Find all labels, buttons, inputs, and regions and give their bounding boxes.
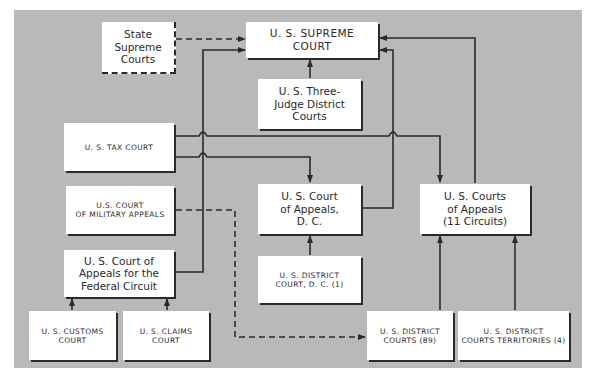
node-three-judge-district-courts: U. S. Three- Judge District Courts xyxy=(258,79,361,129)
node-label: State Supreme Courts xyxy=(114,28,161,66)
node-label: U. S. CUSTOMS COURT xyxy=(41,327,103,345)
node-court-of-appeals-dc: U. S. Court of Appeals, D. C. xyxy=(258,184,361,234)
node-us-supreme-court: U. S. SUPREME COURT xyxy=(246,22,378,58)
node-label: U.S. COURT OF MILITARY APPEALS xyxy=(75,201,164,219)
node-label: U. S. Courts of Appeals (11 Circuits) xyxy=(443,190,507,228)
node-us-claims-court: U. S. CLAIMS COURT xyxy=(123,311,209,360)
node-label: U. S. TAX COURT xyxy=(85,143,153,152)
node-district-courts-89: U. S. DISTRICT COURTS (89) xyxy=(367,311,453,360)
node-label: U. S. SUPREME COURT xyxy=(270,27,355,52)
node-district-court-dc: U. S. DISTRICT COURT, D. C. (1) xyxy=(258,256,361,303)
node-state-supreme-courts: State Supreme Courts xyxy=(102,22,176,74)
node-label: U. S. DISTRICT COURTS (89) xyxy=(380,327,440,345)
node-court-of-appeals-federal-circuit: U. S. Court of Appeals for the Federal C… xyxy=(64,250,174,297)
node-court-of-military-appeals: U.S. COURT OF MILITARY APPEALS xyxy=(66,186,174,234)
node-label: U. S. Court of Appeals for the Federal C… xyxy=(79,255,159,293)
node-district-courts-territories: U. S. DISTRICT COURTS TERRITORIES (4) xyxy=(458,311,569,360)
node-us-customs-court: U. S. CUSTOMS COURT xyxy=(29,311,116,360)
node-label: U. S. CLAIMS COURT xyxy=(140,327,193,345)
node-label: U. S. DISTRICT COURT, D. C. (1) xyxy=(275,271,343,289)
node-us-tax-court: U. S. TAX COURT xyxy=(64,123,174,171)
node-courts-of-appeals-11-circuits: U. S. Courts of Appeals (11 Circuits) xyxy=(420,184,530,234)
node-label: U. S. Three- Judge District Courts xyxy=(274,85,345,123)
node-label: U. S. Court of Appeals, D. C. xyxy=(280,190,339,228)
node-label: U. S. DISTRICT COURTS TERRITORIES (4) xyxy=(461,327,565,345)
